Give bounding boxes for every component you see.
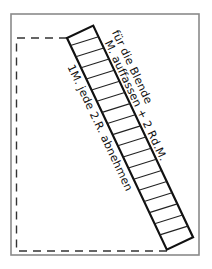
diagram-canvas: für die Blende M. auffassen + 2 Rd.M. 1M… xyxy=(0,0,212,269)
blende-strip-group: für die Blende M. auffassen + 2 Rd.M. 1M… xyxy=(53,15,212,256)
